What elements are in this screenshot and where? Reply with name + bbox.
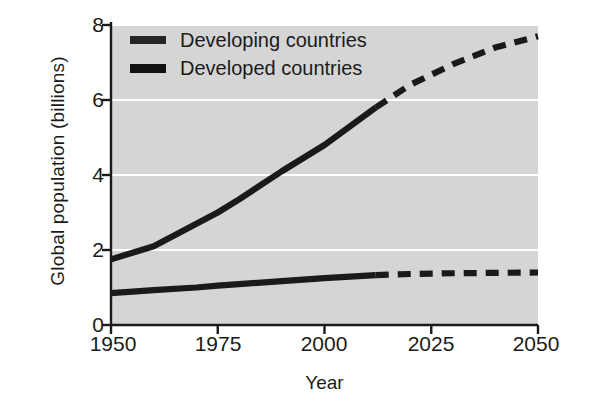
legend-swatch-developed <box>130 64 166 73</box>
legend: Developing countries Developed countries <box>130 27 430 83</box>
population-projection-chart: Global population (billions) 0 2 4 6 8 1… <box>0 0 590 415</box>
legend-item-developed: Developed countries <box>130 55 430 81</box>
legend-label-developing: Developing countries <box>180 30 367 50</box>
legend-label-developed: Developed countries <box>180 58 362 78</box>
legend-item-developing: Developing countries <box>130 27 430 53</box>
legend-swatch-developing <box>130 36 166 44</box>
